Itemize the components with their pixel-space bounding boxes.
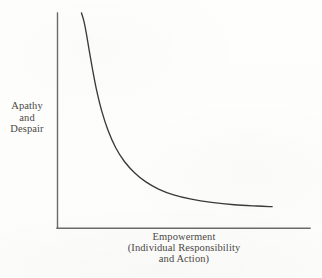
- x-axis-label-line-3: and Action): [58, 253, 310, 264]
- y-axis-label: Apathy and Despair: [2, 100, 52, 135]
- decay-curve: [81, 13, 272, 207]
- figure-canvas: Apathy and Despair Empowerment (Individu…: [0, 0, 322, 278]
- x-axis-label-line-2: (Individual Responsibility: [58, 242, 310, 253]
- y-axis-label-line-3: Despair: [2, 123, 52, 135]
- x-axis-label: Empowerment (Individual Responsibility a…: [58, 231, 310, 264]
- y-axis-label-line-2: and: [2, 112, 52, 124]
- y-axis-label-line-1: Apathy: [2, 100, 52, 112]
- x-axis-label-line-1: Empowerment: [58, 231, 310, 242]
